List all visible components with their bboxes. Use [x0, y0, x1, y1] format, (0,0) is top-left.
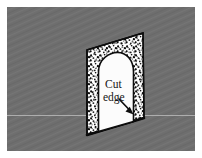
cut-edge-label-line1: Cut — [105, 78, 122, 90]
cut-edge-illustration: Cut edge — [0, 0, 202, 158]
figure-canvas: Cut edge — [0, 0, 202, 158]
figure-container: Cut edge — [0, 0, 202, 158]
cut-edge-label: Cut edge — [103, 78, 125, 104]
